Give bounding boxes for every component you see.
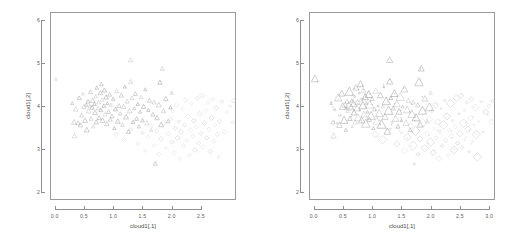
x-tick-label: 2.5	[456, 213, 464, 219]
x-axis-title-right: cloud1[,1]	[389, 223, 415, 229]
x-tick-label: 2.0	[427, 213, 435, 219]
x-tick	[372, 206, 373, 210]
plot-frame-left	[50, 12, 236, 200]
x-tick-label: 0.5	[80, 213, 88, 219]
x-tick	[314, 206, 315, 210]
y-tick-label: 3	[30, 146, 40, 152]
x-tick	[431, 206, 432, 210]
y-tick-label: 6	[289, 17, 299, 23]
x-tick	[489, 206, 490, 210]
x-tick	[343, 206, 344, 210]
x-tick	[460, 206, 461, 210]
x-tick-label: 0.5	[339, 213, 347, 219]
y-tick	[300, 192, 304, 193]
x-tick-label: 2.5	[197, 213, 205, 219]
y-axis-title-right: cloud1[,2]	[284, 93, 290, 119]
y-tick-label: 4	[289, 103, 299, 109]
y-tick	[41, 106, 45, 107]
x-tick-label: 1.5	[398, 213, 406, 219]
y-tick	[300, 63, 304, 64]
x-tick	[84, 206, 85, 210]
x-tick	[113, 206, 114, 210]
x-tick	[201, 206, 202, 210]
x-tick-label: 1.0	[109, 213, 117, 219]
x-tick-label: 1.5	[139, 213, 147, 219]
x-tick	[401, 206, 402, 210]
x-tick	[142, 206, 143, 210]
x-tick-label: 0.0	[51, 213, 59, 219]
y-tick-label: 5	[289, 60, 299, 66]
x-tick	[55, 206, 56, 210]
x-tick	[172, 206, 173, 210]
y-tick	[300, 106, 304, 107]
y-tick	[41, 63, 45, 64]
x-axis-title-left: cloud1[,1]	[130, 223, 156, 229]
x-tick-label: 2.0	[168, 213, 176, 219]
x-tick-label: 0.0	[310, 213, 318, 219]
y-tick-label: 5	[30, 60, 40, 66]
y-tick	[300, 149, 304, 150]
x-tick-label: 1.0	[368, 213, 376, 219]
scatter-panel-left: 0.00.51.01.52.02.5 23456 cloud1[,1] clou…	[0, 0, 259, 249]
y-tick-label: 2	[289, 189, 299, 195]
y-tick-label: 6	[30, 17, 40, 23]
y-tick	[41, 192, 45, 193]
figure-canvas: 0.00.51.01.52.02.5 23456 cloud1[,1] clou…	[0, 0, 518, 249]
plot-frame-right	[309, 12, 495, 200]
y-tick-label: 2	[30, 189, 40, 195]
y-tick-label: 4	[30, 103, 40, 109]
y-axis-title-left: cloud1[,2]	[25, 93, 31, 119]
scatter-panel-right: 0.00.51.01.52.02.53.0 23456 cloud1[,1] c…	[259, 0, 518, 249]
y-tick	[300, 20, 304, 21]
x-tick-label: 3.0	[485, 213, 493, 219]
y-tick	[41, 20, 45, 21]
x-axis-line	[55, 209, 201, 210]
y-tick-label: 3	[289, 146, 299, 152]
y-tick	[41, 149, 45, 150]
